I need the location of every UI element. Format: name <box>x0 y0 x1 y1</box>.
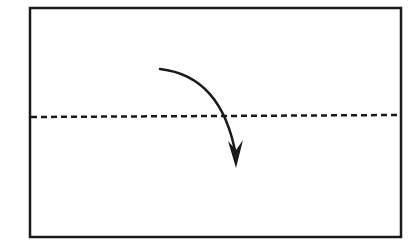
paper-sheet <box>30 8 401 237</box>
curved-arrow-down-icon <box>160 69 236 156</box>
arrowhead-icon <box>228 140 243 168</box>
valley-fold-line <box>31 115 400 117</box>
fold-diagram <box>0 0 420 244</box>
